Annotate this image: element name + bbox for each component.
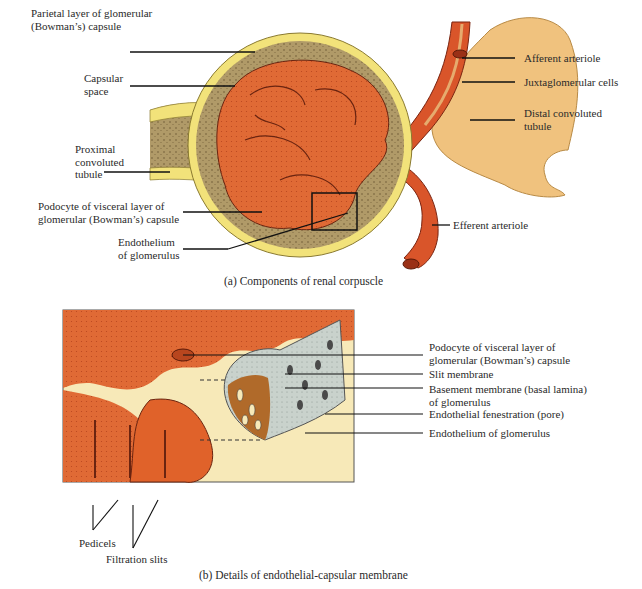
caption-panel-a: (a) Components of renal corpuscle xyxy=(224,275,383,287)
label-afferent-arteriole: Afferent arteriole xyxy=(524,52,600,65)
label-capsular-space: Capsular space xyxy=(84,72,123,97)
label-pedicels: Pedicels xyxy=(79,537,116,550)
label-juxtaglomerular-cells: Juxtaglomerular cells xyxy=(524,76,618,89)
label-slit-membrane: Slit membrane xyxy=(429,368,493,381)
label-basement-membrane: Basement membrane (basal lamina) of glom… xyxy=(429,383,587,408)
label-parietal-layer: Parietal layer of glomerular (Bowman’s) … xyxy=(31,7,152,32)
caption-panel-b: (b) Details of endothelial-capsular memb… xyxy=(199,569,408,581)
label-endothelium-a: Endothelium of glomerulus xyxy=(118,236,179,261)
label-podocyte-a: Podocyte of visceral layer of glomerular… xyxy=(38,200,179,225)
label-podocyte-b: Podocyte of visceral layer of glomerular… xyxy=(429,341,570,366)
label-proximal-tubule: Proximal convoluted tubule xyxy=(75,143,124,181)
label-efferent-arteriole: Efferent arteriole xyxy=(453,219,528,232)
label-distal-tubule: Distal convoluted tubule xyxy=(524,107,602,132)
label-endothelium-b: Endothelium of glomerulus xyxy=(429,427,550,440)
label-endothelial-fenestration: Endothelial fenestration (pore) xyxy=(429,408,564,421)
membrane-detail-illustration xyxy=(63,310,354,482)
label-filtration-slits: Filtration slits xyxy=(106,553,167,566)
